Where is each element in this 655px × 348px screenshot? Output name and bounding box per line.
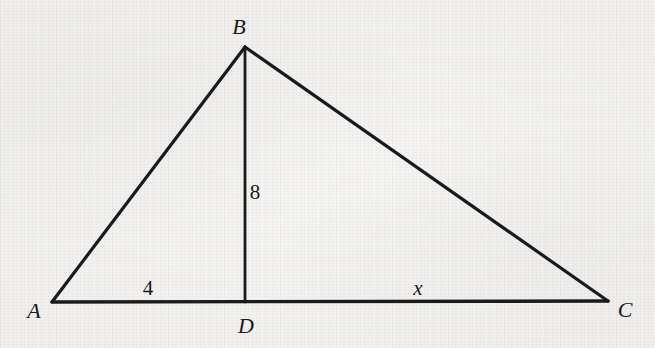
diagram-page: A B C D 4 8 x [0,0,655,348]
measure-label-segment-AD: 4 [143,278,154,299]
base-AC [52,301,608,302]
triangle-figure [0,0,655,348]
vertex-label-A: A [27,300,40,322]
measure-label-altitude-BD: 8 [250,182,261,203]
vertex-label-B: B [232,16,245,38]
side-AB [52,47,245,302]
vertex-label-C: C [618,299,633,321]
vertex-label-D: D [238,315,254,337]
side-BC [245,47,608,301]
measure-label-segment-DC: x [413,278,422,299]
